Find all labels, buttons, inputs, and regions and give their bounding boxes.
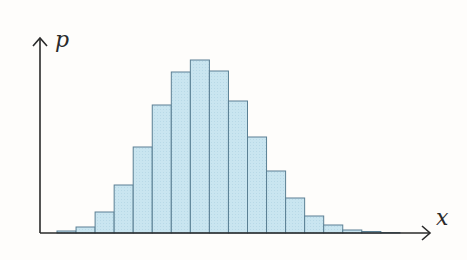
histogram-bar xyxy=(133,147,152,233)
histogram-bar xyxy=(286,198,305,233)
histogram-bar xyxy=(114,185,133,233)
histogram-bar xyxy=(171,72,190,233)
histogram-bar xyxy=(267,171,286,233)
histogram-bar xyxy=(76,227,95,233)
histogram-bar xyxy=(228,101,247,233)
histogram-bar xyxy=(152,105,171,233)
histogram-bar xyxy=(324,225,343,233)
histogram-bars xyxy=(57,60,400,233)
histogram-bar xyxy=(95,212,114,233)
y-axis-label: p xyxy=(55,27,69,52)
x-axis-label: x xyxy=(436,205,449,230)
histogram-chart: p x xyxy=(0,0,467,260)
histogram-bar xyxy=(248,137,267,233)
histogram-bar xyxy=(209,71,228,233)
histogram-bar xyxy=(305,216,324,233)
histogram-bar xyxy=(190,60,209,233)
